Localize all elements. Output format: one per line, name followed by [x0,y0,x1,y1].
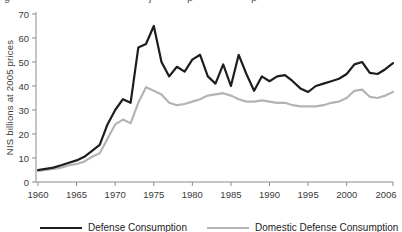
legend-item-domestic-defense-consumption: Domestic Defense Consumption [207,222,398,232]
x-tick-label: 1985 [220,189,241,200]
y-tick-label: 60 [18,33,29,44]
y-tick-label: 40 [18,81,29,92]
x-tick-label: 1970 [105,189,126,200]
y-tick-label: 50 [18,57,29,68]
x-tick-label: 2000 [336,189,357,200]
y-tick-label: 30 [18,105,29,116]
x-tick-label: 1995 [298,189,319,200]
x-tick-label: 2006 [375,189,396,200]
line-chart-plot-area: 0102030405060701960196519701975198019851… [0,0,402,232]
y-tick-label: 10 [18,153,29,164]
legend-label-defense-consumption: Defense Consumption [88,222,187,232]
x-tick-label: 1975 [143,189,164,200]
domestic-defense-consumption-line-swatch [207,227,249,229]
x-tick-label: 1990 [259,189,280,200]
chart-legend: Defense Consumption Domestic Defense Con… [0,218,402,232]
y-tick-label: 70 [18,9,29,20]
defense-consumption-line-swatch [40,227,82,229]
x-tick-label: 1960 [27,189,48,200]
x-tick-label: 1965 [66,189,87,200]
defense-consumption-chart-figure: gjpp NIS billions at 2005 prices 0102030… [0,0,402,232]
series-line-domestic-defense-consumption [38,87,393,171]
legend-item-defense-consumption: Defense Consumption [40,222,187,232]
legend-label-domestic-defense-consumption: Domestic Defense Consumption [255,222,398,232]
y-tick-label: 20 [18,129,29,140]
series-line-defense-consumption [38,26,393,170]
x-tick-label: 1980 [182,189,203,200]
y-tick-label: 0 [24,177,29,188]
